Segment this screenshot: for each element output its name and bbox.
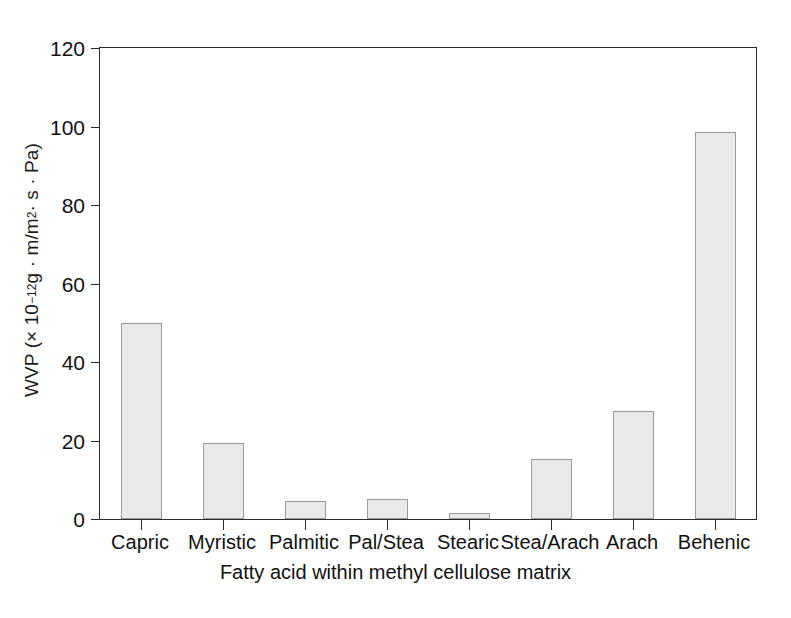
x-axis-tick bbox=[387, 519, 388, 530]
y-axis-tick-label: 80 bbox=[62, 194, 85, 218]
y-axis-tick-label: 0 bbox=[73, 508, 85, 532]
y-axis-tick: 0 bbox=[91, 519, 100, 520]
y-axis-tick: 100 bbox=[91, 127, 100, 128]
bar bbox=[285, 501, 326, 519]
x-axis-tick-label: Capric bbox=[111, 531, 169, 554]
x-axis-tick bbox=[305, 519, 306, 530]
x-axis-tick-label: Stearic bbox=[437, 531, 499, 554]
bar bbox=[203, 443, 244, 519]
x-axis-tick bbox=[715, 519, 716, 530]
y-axis-tick-label: 40 bbox=[62, 351, 85, 375]
y-axis-tick: 40 bbox=[91, 362, 100, 363]
x-axis-tick-label: Myristic bbox=[188, 531, 256, 554]
y-axis-tick-label: 20 bbox=[62, 430, 85, 454]
y-axis-title: WVP (× 10−12 g · m/m2 · s · Pa) bbox=[14, 20, 50, 520]
x-axis-tick bbox=[551, 519, 552, 530]
y-axis-title-prefix: WVP (× 10 bbox=[21, 304, 43, 397]
x-axis-tick-label: Palmitic bbox=[269, 531, 339, 554]
figure-caption-fragment bbox=[0, 602, 791, 616]
y-axis-tick-label: 100 bbox=[50, 116, 85, 140]
y-axis-tick: 20 bbox=[91, 441, 100, 442]
y-axis-tick-label: 120 bbox=[50, 37, 85, 61]
bar-series bbox=[100, 48, 756, 519]
x-axis-title: Fatty acid within methyl cellulose matri… bbox=[0, 561, 791, 584]
x-axis-tick bbox=[469, 519, 470, 530]
bar bbox=[695, 132, 736, 519]
bar bbox=[613, 411, 654, 519]
y-axis-tick: 60 bbox=[91, 284, 100, 285]
chart-figure: WVP (× 10−12 g · m/m2 · s · Pa) 02040608… bbox=[0, 0, 791, 618]
y-axis-tick-label: 60 bbox=[62, 273, 85, 297]
y-axis-title-suffix-2: · s · Pa) bbox=[21, 143, 43, 211]
plot-area: 020406080100120 bbox=[99, 47, 757, 520]
y-axis-tick: 80 bbox=[91, 205, 100, 206]
y-axis-tick: 120 bbox=[91, 48, 100, 49]
x-axis-tick-label: Arach bbox=[606, 531, 658, 554]
y-axis-title-suffix: g · m/m bbox=[21, 218, 43, 283]
x-axis-tick bbox=[633, 519, 634, 530]
x-axis-tick-label: Stea/Arach bbox=[501, 531, 600, 554]
bar bbox=[531, 459, 572, 519]
x-axis-tick-label: Pal/Stea bbox=[348, 531, 424, 554]
bar bbox=[367, 499, 408, 519]
x-axis-tick bbox=[223, 519, 224, 530]
bar bbox=[121, 323, 162, 519]
x-axis-tick-label: Behenic bbox=[678, 531, 750, 554]
x-axis-tick bbox=[141, 519, 142, 530]
